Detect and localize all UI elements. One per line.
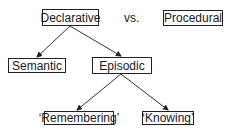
node-episodic-label: Episodic	[99, 60, 144, 72]
arrow-declarative-to-episodic	[70, 26, 121, 56]
node-remembering: ‘Remembering’	[44, 111, 114, 125]
arrow-declarative-to-semantic	[37, 26, 70, 57]
node-remembering-label: ‘Remembering’	[39, 112, 120, 124]
node-declarative-label: Declarative	[40, 12, 100, 24]
node-semantic: Semantic	[8, 58, 66, 73]
node-episodic: Episodic	[92, 57, 152, 74]
node-semantic-label: Semantic	[12, 60, 62, 72]
arrow-episodic-to-remembering	[77, 74, 121, 110]
node-knowing: ‘Knowing’	[142, 111, 194, 125]
node-knowing-label: ‘Knowing’	[142, 112, 193, 124]
node-declarative: Declarative	[42, 9, 99, 26]
node-procedural-label: Procedural	[164, 12, 222, 24]
node-procedural: Procedural	[163, 10, 223, 26]
arrow-episodic-to-knowing	[121, 74, 168, 110]
versus-label: vs.	[124, 12, 139, 24]
